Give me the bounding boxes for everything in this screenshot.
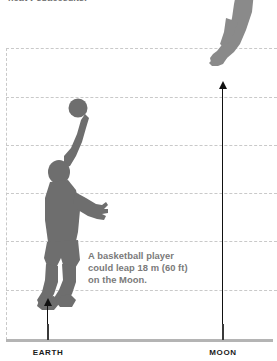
moon-jump-arrow bbox=[222, 88, 223, 338]
infographic-canvas: heavy spacesuits. bbox=[0, 0, 277, 361]
axis-label-moon: MOON bbox=[209, 348, 236, 357]
caption-line-2: could leap 18 m (60 ft) bbox=[88, 262, 218, 274]
earth-tick bbox=[47, 324, 49, 340]
axis-label-earth: EARTH bbox=[33, 348, 64, 357]
cropped-headline-fragment: heavy spacesuits. bbox=[8, 0, 87, 1]
vertical-axis bbox=[6, 48, 7, 340]
caption-line-1: A basketball player bbox=[88, 250, 218, 262]
caption-line-3: on the Moon. bbox=[88, 274, 218, 286]
annotation-caption: A basketball player could leap 18 m (60 … bbox=[88, 250, 218, 287]
moon-tick bbox=[222, 324, 224, 340]
moon-player-silhouette bbox=[196, 0, 258, 72]
